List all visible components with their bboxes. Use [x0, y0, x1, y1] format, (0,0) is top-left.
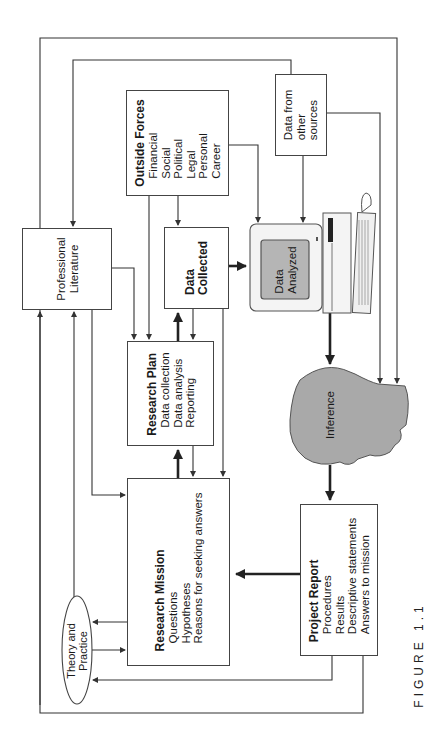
outside-force-item: Social [159, 99, 172, 186]
research-plan-item: Data collection [158, 352, 171, 435]
project-report-item: Answers to mission [358, 518, 371, 642]
figure-caption: FIGURE 1.1 [412, 602, 426, 707]
research-mission-title: Research Mission [153, 493, 166, 652]
project-report-item: Descriptive statements [346, 518, 359, 642]
other-sources-line: other [295, 90, 308, 141]
data-collected-line: Collected [197, 241, 210, 295]
outside-forces-title: Outside Forces [134, 99, 147, 186]
other-sources-line: sources [307, 90, 320, 141]
theory-line: Theory and [65, 623, 77, 679]
project-report-box: Project Report Procedures Results Descri… [300, 504, 378, 656]
outside-forces-to-computer [229, 145, 258, 222]
inference-label: Inference [300, 370, 360, 460]
research-plan-title: Research Plan [145, 352, 158, 435]
research-mission-box: Research Mission Questions Hypotheses Re… [127, 478, 230, 666]
project-report-item: Results [333, 518, 346, 642]
literature-line: Literature [67, 237, 80, 300]
professional-literature-box: Professional Literature [22, 228, 112, 310]
data-collected-line: Data [184, 241, 197, 295]
theory-line: Practice [77, 623, 89, 679]
project-report-item: Procedures [321, 518, 334, 642]
data-collected-box: Data Collected [164, 227, 229, 309]
data-analyzed-line: Data [273, 246, 286, 293]
outside-forces-box: Outside Forces Financial Social Politica… [126, 90, 229, 196]
outside-force-item: Political [172, 99, 185, 186]
literature-line: Professional [55, 237, 68, 300]
research-mission-item: Questions [166, 493, 179, 652]
research-mission-item: Reasons for seeking answers [191, 493, 204, 652]
other-sources-line: Data from [282, 90, 295, 141]
data-analyzed-line: Analyzed [285, 246, 298, 293]
outside-force-item: Personal [197, 99, 210, 186]
data-analyzed-label: Data Analyzed [261, 240, 309, 299]
theory-practice-label: Theory and Practice [62, 597, 92, 704]
outside-force-item: Career [209, 99, 222, 186]
inference-text: Inference [324, 391, 337, 439]
project-report-title: Project Report [308, 518, 321, 642]
literature-to-research-mission [92, 310, 125, 495]
literature-to-research-plan [112, 268, 134, 339]
data-other-sources-box: Data from other sources [275, 74, 327, 156]
outside-force-item: Financial [147, 99, 160, 186]
research-mission-item: Hypotheses [179, 493, 192, 652]
outside-force-item: Legal [184, 99, 197, 186]
